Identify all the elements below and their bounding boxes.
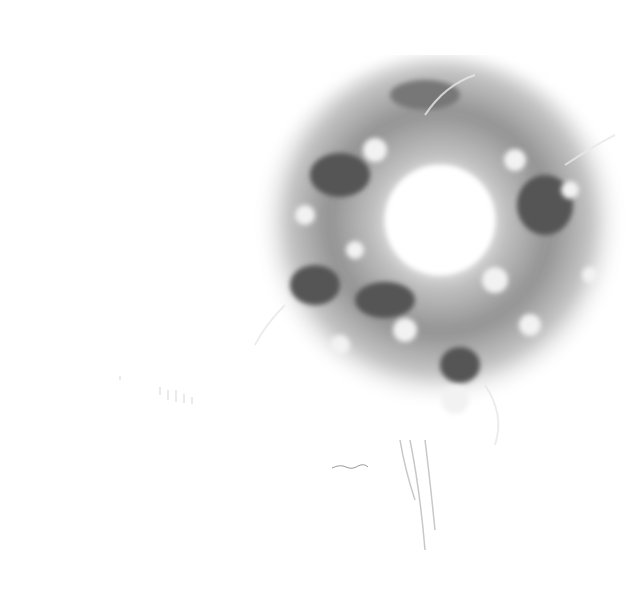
illustration-canvas: [0, 0, 642, 599]
artist-signature-mark: [330, 460, 370, 472]
hanging-stems-illustration: [380, 440, 460, 560]
floral-wreath-illustration: [245, 55, 635, 455]
faint-grass-sketch: [110, 370, 240, 420]
